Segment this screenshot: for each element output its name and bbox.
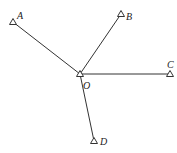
ray-diagram: A B C D O <box>0 0 177 153</box>
triangle-marker-D-icon <box>91 138 98 144</box>
segment-OB <box>80 14 121 74</box>
triangle-marker-B-icon <box>118 11 125 17</box>
triangle-marker-A-icon <box>10 19 17 25</box>
label-D: D <box>99 136 108 147</box>
segment-OA <box>13 22 80 74</box>
label-A: A <box>16 10 24 21</box>
segments <box>13 14 170 141</box>
label-B: B <box>126 11 132 22</box>
label-C: C <box>167 59 174 70</box>
label-O: O <box>83 80 90 91</box>
labels: A B C D O <box>16 10 174 147</box>
markers <box>10 11 174 144</box>
